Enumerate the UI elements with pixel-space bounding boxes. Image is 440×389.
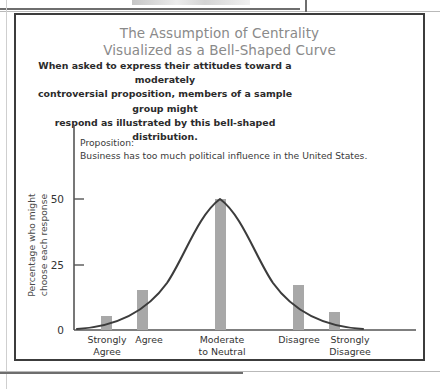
chart-plot-area: Proposition: Business has too much polit… bbox=[16, 15, 427, 363]
page-rule-bottom-thin bbox=[0, 371, 440, 372]
page-divider-vertical bbox=[305, 0, 307, 12]
page-rule-top-thin bbox=[0, 11, 440, 12]
chart-svg bbox=[16, 15, 427, 363]
bar-strongly-disagree bbox=[329, 312, 340, 330]
x-tick-label-strongly-disagree: Strongly Disagree bbox=[321, 334, 379, 359]
figure-caption-sliver bbox=[132, 0, 250, 5]
page-edge-left bbox=[6, 0, 7, 389]
bar-moderate-to-neutral bbox=[215, 199, 226, 330]
page-rule-top bbox=[0, 8, 300, 10]
page-rule-bottom bbox=[0, 372, 243, 374]
x-tick-label-moderate-neutral: Moderate to Neutral bbox=[191, 334, 253, 359]
figure-box: The Assumption of Centrality Visualized … bbox=[14, 13, 425, 361]
x-tick-label-disagree: Disagree bbox=[270, 334, 328, 346]
x-tick-label-agree: Agree bbox=[120, 334, 178, 346]
